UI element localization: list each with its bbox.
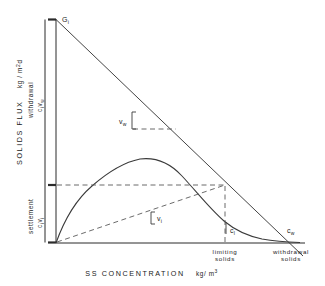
settling-velocity-label: vi: [157, 215, 162, 224]
curves-group: [56, 20, 303, 257]
axes-group: [45, 19, 305, 243]
withdrawal-velocity-bracket: [132, 112, 136, 129]
withdrawal-solids-caption-line2: solids: [281, 255, 301, 262]
settling-velocity-bracket: [151, 212, 155, 224]
settlement-flux-dashed: [57, 185, 225, 242]
annotation-labels-group: Gi vw vi cl cw: [62, 16, 295, 236]
y-axis-title: SOLIDS FLUX: [15, 101, 24, 165]
y-segment-value-settlement: civi: [36, 217, 45, 228]
limiting-solids-caption-line1: limiting: [213, 248, 238, 255]
y-segment-label-settlement: settlement: [27, 199, 34, 234]
x-marker-captions-group: limiting solids withdrawal solids: [213, 248, 310, 262]
withdrawal-velocity-label: vw: [119, 118, 127, 127]
y-segment-value-withdrawal: civw: [36, 98, 45, 112]
y-segment-label-withdrawal: withdrawal: [27, 82, 34, 119]
total-flux-label: Gi: [62, 16, 69, 25]
figure-canvas: Gi vw vi cl cw limiting solids withdra: [0, 0, 325, 286]
x-axis-units: kg/ m3: [196, 268, 218, 278]
y-axis-label-group: SOLIDS FLUX kg / m2d withdrawal civw set…: [15, 59, 45, 234]
solids-flux-figure: Gi vw vi cl cw limiting solids withdra: [0, 0, 325, 286]
construction-lines-group: [57, 129, 225, 242]
withdrawal-solids-caption-line1: withdrawal: [272, 248, 309, 255]
y-axis-units: kg / m2d: [15, 59, 24, 88]
underflow-operating-line: [56, 20, 303, 257]
x-axis-title: SS CONCENTRATION: [85, 269, 184, 278]
x-axis-label-group: SS CONCENTRATION kg/ m3: [85, 268, 218, 278]
withdrawal-concentration-label: cw: [287, 227, 295, 236]
limiting-solids-caption-line2: solids: [215, 255, 235, 262]
